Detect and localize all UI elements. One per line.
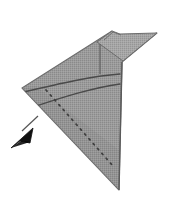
delta-wing-figure xyxy=(0,0,171,206)
delta-wing-body xyxy=(22,31,157,190)
figure-container: Swept delta wing schematic with leader a… xyxy=(0,0,171,206)
leader-arrow-head-shade xyxy=(11,141,30,148)
leader-line xyxy=(22,116,38,131)
